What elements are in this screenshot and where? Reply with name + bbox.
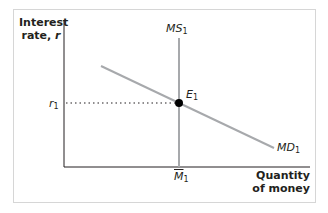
equilibrium-label: E1	[186, 88, 198, 104]
ms-label: MS1	[166, 22, 188, 38]
money-demand-curve	[101, 66, 274, 148]
m1-tick-label: M1	[174, 170, 189, 186]
y-axis-label: Interest rate, r	[19, 16, 63, 42]
x-axis-label: Quantity of money	[250, 169, 310, 195]
equilibrium-point	[175, 99, 183, 107]
r1-tick-label: r1	[49, 97, 59, 113]
md-label: MD1	[277, 141, 300, 157]
